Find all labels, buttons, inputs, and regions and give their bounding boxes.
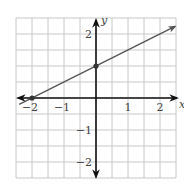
x-tick-label: −2 xyxy=(22,101,38,114)
coordinate-graph: −2−1122−1−2xy xyxy=(0,0,184,191)
x-tick-label: 1 xyxy=(125,101,132,114)
x-axis-label: x xyxy=(179,98,184,111)
y-tick-label: −2 xyxy=(76,156,92,169)
axes xyxy=(18,20,177,177)
data-point xyxy=(93,63,98,68)
x-tick-label: 2 xyxy=(157,101,164,114)
data-point xyxy=(29,95,34,100)
x-tick-label: −1 xyxy=(54,101,70,114)
y-tick-label: 2 xyxy=(85,28,92,41)
y-tick-label: −1 xyxy=(76,124,92,137)
y-axis-label: y xyxy=(100,14,108,27)
